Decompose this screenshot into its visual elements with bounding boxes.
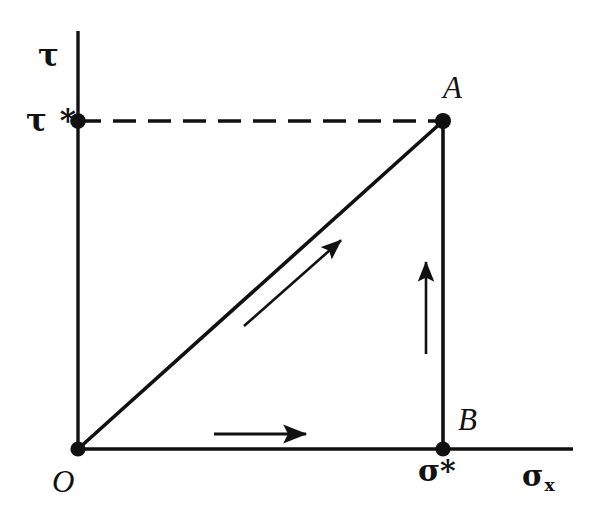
load-path-group [78, 121, 443, 449]
proportional-path-OA [78, 121, 443, 449]
tau-star-tick-label: τ * [26, 105, 77, 136]
direction-arrows-group [214, 240, 426, 434]
normal-stress-axis-label-base: σ [522, 459, 543, 493]
sigma-star-tick-label: σ* [418, 456, 456, 486]
axes-group [78, 31, 573, 449]
shear-stress-axis-label: τ [38, 40, 59, 71]
point-O-label: O [52, 466, 74, 497]
arrow-along-OA [244, 240, 341, 326]
normal-stress-axis-label: σx [522, 462, 555, 494]
point-B-label: B [458, 404, 477, 435]
point-O-marker [70, 441, 85, 456]
point-A-marker [435, 113, 451, 129]
normal-stress-axis-label-subscript: x [544, 475, 554, 495]
figure-canvas [0, 0, 606, 520]
point-A-label: A [443, 72, 462, 103]
stress-path-figure: τ τ * σ* σx A B O [0, 0, 606, 520]
